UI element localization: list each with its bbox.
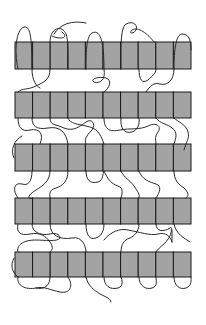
chain-strand xyxy=(104,118,159,144)
band-segment xyxy=(173,252,191,277)
chain-strand xyxy=(139,69,156,82)
chain-strand xyxy=(18,118,42,144)
band-segment xyxy=(138,198,156,224)
chain-strand xyxy=(104,171,122,198)
band-segment xyxy=(156,144,174,171)
band-segment xyxy=(173,144,191,171)
layered-block-diagram xyxy=(0,0,206,325)
band-segment xyxy=(138,252,156,277)
chain-strand xyxy=(50,171,68,198)
chain-strand xyxy=(139,171,160,198)
band-segment xyxy=(121,252,139,277)
band-segment xyxy=(173,198,191,224)
chain-strand xyxy=(174,171,188,198)
chain-strand xyxy=(139,277,156,289)
chain-strand xyxy=(54,22,86,34)
band xyxy=(15,252,191,277)
band-segment xyxy=(50,42,68,69)
band-segment xyxy=(103,144,121,171)
band-segment xyxy=(15,252,33,277)
band-segment xyxy=(156,252,174,277)
band-segment xyxy=(33,198,51,224)
band-segment xyxy=(33,42,51,69)
band-segment xyxy=(103,252,121,277)
band-segment xyxy=(121,198,139,224)
chain-strand xyxy=(121,224,139,252)
chain-strand xyxy=(93,69,110,92)
band-segment xyxy=(68,144,86,171)
band-segment xyxy=(68,252,86,277)
band-segment xyxy=(68,198,86,224)
chain-strand xyxy=(86,171,104,183)
band-segment xyxy=(156,198,174,224)
band-segment xyxy=(85,252,103,277)
band-segment xyxy=(50,92,68,118)
band-segment xyxy=(138,92,156,118)
chain-strand xyxy=(52,32,65,38)
band-segment xyxy=(85,92,103,118)
band xyxy=(15,198,191,224)
band-segment xyxy=(50,144,68,171)
chain-strand xyxy=(18,224,60,252)
chain-strand xyxy=(156,224,172,252)
band-segment xyxy=(156,92,174,118)
chain-strand xyxy=(15,171,32,198)
band-segment xyxy=(173,42,191,69)
band-segment xyxy=(138,144,156,171)
chain-strand xyxy=(18,277,71,292)
chain-strand xyxy=(18,224,53,252)
band-segment xyxy=(33,92,51,118)
band-segment xyxy=(173,92,191,118)
band-segment xyxy=(15,198,33,224)
band-segment xyxy=(85,144,103,171)
chain-strand xyxy=(121,118,139,132)
band-segment xyxy=(50,252,68,277)
band xyxy=(15,144,191,171)
band xyxy=(15,92,191,118)
band-segment xyxy=(50,198,68,224)
band-segment xyxy=(15,144,33,171)
chain-strand xyxy=(174,277,191,289)
chain-strand xyxy=(146,69,174,92)
chain-strand xyxy=(36,277,50,289)
chain-strand xyxy=(86,224,104,238)
band-segment xyxy=(33,144,51,171)
band-segment xyxy=(121,42,139,69)
chain-strand xyxy=(32,118,68,144)
band-segment xyxy=(15,92,33,118)
band-segment xyxy=(156,42,174,69)
chain-strand xyxy=(121,171,139,198)
band-segment xyxy=(121,92,139,118)
band-segment xyxy=(121,144,139,171)
band-segment xyxy=(138,42,156,69)
band-segment xyxy=(85,198,103,224)
band-segment xyxy=(33,252,51,277)
band-segment xyxy=(103,198,121,224)
band-segment xyxy=(85,42,103,69)
band-segment xyxy=(103,92,121,118)
chain-strand xyxy=(86,277,111,302)
band-segment xyxy=(68,42,86,69)
band-segment xyxy=(103,42,121,69)
band-segment xyxy=(68,92,86,118)
chain-strand xyxy=(104,229,172,242)
chain-strand xyxy=(104,277,122,289)
chain-strand xyxy=(50,224,86,252)
chain-strand xyxy=(174,224,190,242)
